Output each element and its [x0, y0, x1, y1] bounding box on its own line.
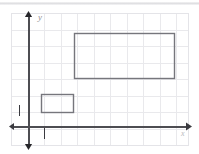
- small-rectangle: [42, 95, 74, 113]
- y-axis-arrow-down: [25, 144, 32, 150]
- y-axis-label: y: [38, 13, 42, 22]
- figure-canvas: y x: [0, 0, 199, 154]
- x-axis-label: x: [181, 130, 185, 138]
- large-rectangle: [75, 34, 175, 79]
- coordinate-plane-svg: [0, 0, 199, 154]
